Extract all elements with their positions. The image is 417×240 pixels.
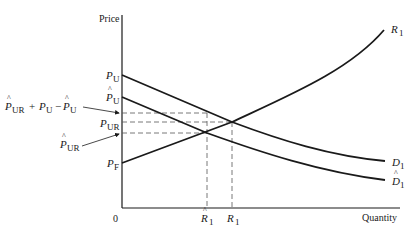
- svg-text:UR: UR: [107, 122, 120, 132]
- label-demand-hat-curve: ^ D 1: [391, 169, 405, 190]
- svg-text:P: P: [59, 138, 67, 150]
- combo-callout-arrow: [83, 107, 119, 113]
- x-axis-label: Quantity: [362, 212, 397, 223]
- svg-text:D: D: [391, 175, 400, 187]
- y-axis-label: Price: [99, 13, 120, 24]
- svg-text:P: P: [38, 100, 46, 112]
- svg-text:P: P: [62, 100, 70, 112]
- label-r1: R 1: [226, 212, 240, 227]
- svg-text:−: −: [55, 100, 61, 112]
- label-p-u-hat: ^ P U: [105, 85, 120, 106]
- svg-text:F: F: [114, 162, 119, 172]
- svg-text:+: +: [29, 100, 35, 112]
- svg-text:1: 1: [400, 180, 405, 190]
- label-p-u: P U: [105, 69, 120, 84]
- origin-label: 0: [113, 213, 118, 224]
- svg-text:R: R: [226, 212, 234, 224]
- svg-text:P: P: [105, 91, 113, 103]
- svg-text:P: P: [99, 117, 107, 129]
- supply-curve-r1: [122, 30, 384, 163]
- svg-text:U: U: [46, 105, 53, 115]
- price-quantity-diagram: Price Quantity 0 P U ^ P U P UR P F ^ P …: [0, 0, 417, 240]
- label-p-ur: P UR: [99, 117, 120, 132]
- svg-text:U: U: [113, 74, 120, 84]
- p-ur-hat-callout-arrow: [82, 134, 119, 146]
- svg-text:U: U: [113, 96, 120, 106]
- svg-text:1: 1: [400, 161, 405, 171]
- svg-text:U: U: [70, 105, 77, 115]
- svg-text:R: R: [200, 212, 208, 224]
- svg-text:1: 1: [235, 217, 240, 227]
- svg-text:D: D: [391, 156, 400, 168]
- svg-text:UR: UR: [12, 105, 25, 115]
- label-p-ur-hat-callout: ^ P UR: [59, 132, 80, 153]
- svg-text:1: 1: [399, 28, 404, 38]
- svg-text:1: 1: [209, 217, 214, 227]
- demand-curve-d1-hat: [122, 97, 385, 180]
- label-combo-callout: ^ P UR + P U − ^ P U: [4, 94, 77, 115]
- label-supply-curve: R 1: [390, 23, 404, 38]
- svg-text:UR: UR: [67, 143, 80, 153]
- label-p-f: P F: [106, 157, 119, 172]
- label-r1-hat: ^ R 1: [200, 206, 214, 227]
- svg-text:P: P: [4, 100, 12, 112]
- svg-text:P: P: [106, 157, 114, 169]
- svg-text:R: R: [390, 23, 398, 35]
- svg-text:P: P: [105, 69, 113, 81]
